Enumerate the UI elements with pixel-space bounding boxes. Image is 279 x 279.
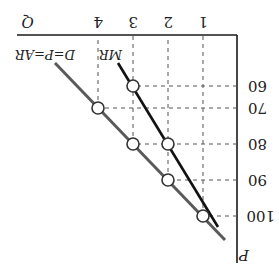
demand-mr-chart: 100 90 80 70 60 1 2 3 4 P Q MR D=P=AR <box>0 0 279 279</box>
q-tick-2: 2 <box>163 13 173 31</box>
mr-label: MR <box>99 47 123 62</box>
point-mr-q2 <box>162 138 174 150</box>
p-tick-90: 90 <box>248 171 267 189</box>
q-tick-3: 3 <box>128 13 138 31</box>
q-tick-1: 1 <box>198 13 208 31</box>
point-d-q3 <box>127 138 139 150</box>
q-axis-label: Q <box>22 13 34 31</box>
point-d-q1 <box>197 210 209 222</box>
p-tick-70: 70 <box>248 99 267 117</box>
q-tick-4: 4 <box>93 13 103 31</box>
p-tick-100: 100 <box>246 207 275 225</box>
p-tick-80: 80 <box>248 135 267 153</box>
p-tick-60: 60 <box>248 77 267 95</box>
demand-label: D=P=AR <box>15 47 76 62</box>
point-d-q2 <box>162 174 174 186</box>
p-axis-label: P <box>238 246 250 264</box>
point-mr-q3 <box>127 80 139 92</box>
point-d-q4 <box>92 102 104 114</box>
